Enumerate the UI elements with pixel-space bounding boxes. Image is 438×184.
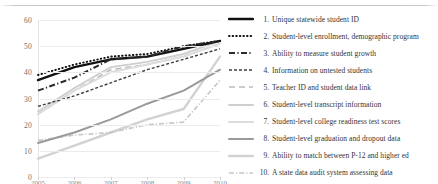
gridline xyxy=(38,151,220,152)
legend-item[interactable]: 7.Student-level college readiness test s… xyxy=(228,116,438,128)
series-line xyxy=(38,44,220,115)
x-tick-label: 2009 xyxy=(177,179,191,184)
x-tick-label: 2006 xyxy=(67,179,81,184)
legend-label: Ability to measure student growth xyxy=(272,49,376,58)
series-line xyxy=(38,80,220,140)
legend-item[interactable]: 10.A state data audit system assessing d… xyxy=(228,167,438,179)
x-tick-label: 2007 xyxy=(104,179,118,184)
x-tick-label: 2010 xyxy=(213,179,227,184)
legend-number: 6. xyxy=(256,100,269,109)
chart-panel: 0102030405060 200520062007200820092010 xyxy=(0,10,222,184)
legend-label: Student-level enrollment, demographic pr… xyxy=(272,32,419,41)
y-tick-label: 60 xyxy=(2,16,32,25)
legend-item[interactable]: 6.Student-level transcript information xyxy=(228,99,438,111)
legend-number: 9. xyxy=(256,151,269,160)
y-tick-label: 20 xyxy=(2,121,32,130)
legend-item[interactable]: 2.Student-level enrollment, demographic … xyxy=(228,30,438,42)
x-tick-label: 2005 xyxy=(31,179,45,184)
legend-number: 1. xyxy=(256,15,269,24)
gridline xyxy=(38,72,220,73)
legend-number: 10. xyxy=(256,168,269,177)
legend-swatch-icon xyxy=(228,48,254,58)
legend-swatch-icon xyxy=(228,134,254,144)
legend-swatch-icon xyxy=(228,151,254,161)
legend-label: Student-level college readiness test sco… xyxy=(272,117,400,126)
gridline xyxy=(38,177,220,178)
chart-legend: 1.Unique statewide student ID2.Student-l… xyxy=(228,13,438,184)
legend-label: Ability to match between P-12 and higher… xyxy=(272,151,409,160)
plot-area xyxy=(38,20,220,177)
legend-label: A state data audit system assessing data xyxy=(272,168,393,177)
legend-number: 7. xyxy=(256,117,269,126)
gridline xyxy=(38,125,220,126)
legend-number: 3. xyxy=(256,49,269,58)
legend-label: Student-level graduation and dropout dat… xyxy=(272,134,400,143)
legend-number: 5. xyxy=(256,83,269,92)
top-divider xyxy=(0,5,438,6)
legend-swatch-icon xyxy=(228,117,254,127)
legend-label: Teacher ID and student data link xyxy=(272,83,371,92)
legend-swatch-icon xyxy=(228,168,254,178)
legend-item[interactable]: 4.Information on untested students xyxy=(228,64,438,76)
legend-item[interactable]: 3.Ability to measure student growth xyxy=(228,47,438,59)
legend-swatch-icon xyxy=(228,100,254,110)
y-tick-label: 50 xyxy=(2,42,32,51)
legend-label: Unique statewide student ID xyxy=(272,15,359,24)
legend-swatch-icon xyxy=(228,14,254,24)
gridline xyxy=(38,99,220,100)
legend-label: Information on untested students xyxy=(272,66,372,75)
legend-number: 4. xyxy=(256,66,269,75)
legend-swatch-icon xyxy=(228,82,254,92)
legend-swatch-icon xyxy=(228,31,254,41)
legend-item[interactable]: 9.Ability to match between P-12 and high… xyxy=(228,150,438,162)
legend-label: Student-level transcript information xyxy=(272,100,381,109)
series-line xyxy=(38,41,220,91)
legend-swatch-icon xyxy=(228,65,254,75)
legend-item[interactable]: 1.Unique statewide student ID xyxy=(228,13,438,25)
legend-item[interactable]: 8.Student-level graduation and dropout d… xyxy=(228,133,438,145)
y-tick-label: 10 xyxy=(2,147,32,156)
gridline xyxy=(38,46,220,47)
y-tick-label: 30 xyxy=(2,95,32,104)
gridline xyxy=(38,20,220,21)
legend-number: 2. xyxy=(256,32,269,41)
legend-number: 8. xyxy=(256,134,269,143)
y-tick-label: 40 xyxy=(2,68,32,77)
legend-item[interactable]: 5.Teacher ID and student data link xyxy=(228,81,438,93)
x-tick-label: 2008 xyxy=(140,179,154,184)
y-tick-label: 0 xyxy=(2,173,32,182)
